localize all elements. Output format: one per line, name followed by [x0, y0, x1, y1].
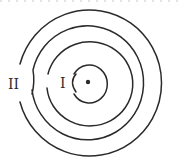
- label-i: I: [60, 75, 66, 91]
- label-ii: II: [8, 76, 19, 92]
- concentric-rings-diagram: I II: [0, 0, 181, 164]
- center-dot: [86, 80, 90, 84]
- ring-4-outer: [20, 10, 162, 156]
- ring-1-inner: [74, 65, 107, 103]
- ring-1-left-arc: [73, 74, 77, 92]
